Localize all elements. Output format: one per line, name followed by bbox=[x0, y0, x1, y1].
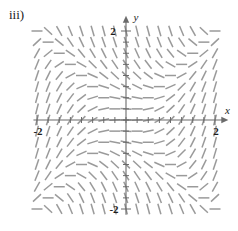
slope-segment bbox=[55, 39, 64, 46]
slope-segment bbox=[102, 37, 106, 47]
slope-segment bbox=[134, 171, 140, 180]
x-axis-arrowhead bbox=[221, 117, 228, 123]
slope-segment bbox=[35, 59, 39, 69]
y-axis-tick-label-minus2: -2 bbox=[109, 203, 119, 215]
x-axis-label: x bbox=[224, 104, 230, 116]
slope-segment bbox=[99, 161, 108, 168]
slope-segment bbox=[200, 50, 209, 57]
slope-segment bbox=[45, 60, 51, 69]
slope-segment bbox=[89, 172, 97, 180]
slope-segment bbox=[190, 149, 196, 158]
slope-segment bbox=[202, 137, 206, 147]
slope-segment bbox=[35, 171, 39, 181]
slope-segment bbox=[190, 137, 195, 147]
slope-field-figure: iii) x y -2 2 2 -2 bbox=[0, 0, 238, 231]
slope-segment bbox=[178, 138, 185, 147]
slope-segment bbox=[169, 204, 172, 214]
slope-segment bbox=[143, 108, 154, 110]
slope-segment bbox=[66, 83, 74, 91]
slope-segment bbox=[46, 126, 49, 136]
slope-segment bbox=[213, 159, 216, 169]
slope-segment bbox=[158, 204, 161, 215]
slope-segment bbox=[77, 94, 86, 101]
slope-segment bbox=[102, 204, 105, 215]
slope-segment bbox=[36, 104, 39, 115]
slope-segment bbox=[145, 171, 152, 180]
slope-segment bbox=[166, 173, 176, 178]
slope-segment bbox=[180, 26, 184, 36]
slope-segment bbox=[143, 130, 154, 132]
slope-segment bbox=[190, 204, 195, 214]
slope-segment bbox=[99, 85, 110, 88]
slope-segment bbox=[155, 60, 163, 68]
slope-segment bbox=[88, 162, 98, 166]
slope-segment bbox=[77, 173, 87, 178]
slope-segment bbox=[57, 93, 62, 103]
slope-segment bbox=[146, 48, 151, 58]
slope-segment bbox=[102, 193, 106, 203]
slope-segment bbox=[178, 149, 186, 157]
slope-segment bbox=[55, 194, 64, 201]
slope-segment bbox=[135, 48, 140, 58]
slope-segment bbox=[33, 38, 41, 46]
slope-segment bbox=[101, 182, 106, 192]
y-axis-label: y bbox=[133, 11, 139, 23]
slope-segment bbox=[147, 204, 150, 215]
slope-segment bbox=[132, 97, 143, 99]
slope-segment bbox=[57, 126, 62, 136]
slope-field-plot: x y -2 2 2 -2 bbox=[0, 0, 238, 231]
slope-segment bbox=[77, 139, 86, 146]
slope-segment bbox=[180, 204, 184, 214]
slope-segment bbox=[98, 108, 109, 110]
slope-segment bbox=[169, 26, 172, 36]
slope-segment bbox=[144, 72, 153, 79]
slope-segment bbox=[55, 61, 64, 67]
slope-segment bbox=[77, 62, 87, 67]
slope-segment bbox=[146, 193, 150, 203]
slope-segment bbox=[56, 160, 63, 169]
slope-segment bbox=[214, 92, 217, 103]
slope-segment bbox=[66, 162, 76, 167]
x-axis-tick-label-2: 2 bbox=[213, 125, 219, 137]
slope-segment bbox=[157, 49, 163, 58]
slope-segment bbox=[46, 82, 50, 92]
slope-segment bbox=[87, 96, 97, 99]
slope-segment bbox=[179, 127, 185, 136]
slope-segment bbox=[80, 26, 83, 36]
slope-segment bbox=[68, 204, 72, 214]
slope-segment bbox=[200, 183, 209, 190]
slope-segment bbox=[113, 37, 116, 47]
slope-segment bbox=[56, 149, 62, 158]
slope-segment bbox=[143, 85, 154, 88]
slope-segment bbox=[98, 130, 109, 132]
slope-segment bbox=[201, 160, 206, 170]
slope-segment bbox=[188, 39, 197, 46]
slope-segment bbox=[90, 49, 96, 58]
slope-segment bbox=[155, 172, 163, 180]
slope-segment bbox=[67, 193, 73, 202]
slope-segment bbox=[57, 26, 62, 36]
slope-segment bbox=[35, 81, 38, 92]
slope-segment bbox=[77, 127, 85, 135]
slope-segment bbox=[44, 50, 53, 57]
slope-segment bbox=[77, 105, 85, 113]
slope-segment bbox=[179, 193, 185, 202]
slope-segment bbox=[190, 93, 195, 103]
slope-segment bbox=[132, 141, 143, 143]
slope-segment bbox=[68, 26, 72, 36]
slope-segment bbox=[166, 105, 174, 113]
slope-segment bbox=[35, 148, 38, 159]
slope-segment bbox=[76, 84, 86, 88]
slope-segment bbox=[67, 93, 74, 102]
slope-segment bbox=[66, 184, 75, 190]
slope-segment bbox=[44, 183, 53, 190]
slope-segment bbox=[78, 182, 85, 191]
slope-segment bbox=[190, 82, 196, 91]
slope-segment bbox=[132, 84, 142, 89]
slope-segment bbox=[113, 48, 118, 58]
slope-segment bbox=[166, 139, 175, 146]
slope-segment bbox=[202, 104, 205, 114]
slope-segment bbox=[178, 83, 186, 91]
slope-segment bbox=[91, 37, 95, 47]
slope-segment bbox=[57, 137, 62, 147]
